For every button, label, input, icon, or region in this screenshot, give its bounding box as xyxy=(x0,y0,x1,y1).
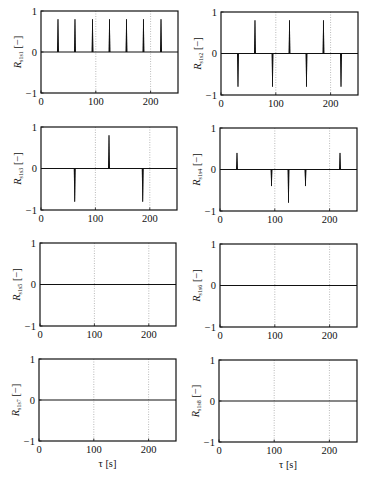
x-tick-label: 200 xyxy=(322,445,338,456)
y-tick-label: −1 xyxy=(25,321,36,332)
y-tick-label: −1 xyxy=(206,90,217,101)
y-tick-label: 1 xyxy=(32,6,37,17)
y-tick-label: 1 xyxy=(31,238,36,249)
x-tick-label: 200 xyxy=(141,444,157,455)
y-tick-label: −1 xyxy=(26,88,37,99)
y-tick-label: 1 xyxy=(32,122,37,133)
y-tick-label: −1 xyxy=(205,206,216,217)
y-tick-label: 0 xyxy=(32,163,37,174)
x-tick-label: 100 xyxy=(268,98,284,109)
chart-panel-6: 10−10100200Rs1s6 [−] xyxy=(191,239,357,342)
x-tick-label: 200 xyxy=(142,213,158,224)
x-tick-label: 0 xyxy=(217,214,222,225)
x-tick-label: 100 xyxy=(87,329,103,340)
x-tick-label: 0 xyxy=(218,98,223,109)
x-tick-label: 0 xyxy=(38,96,43,107)
y-tick-label: 0 xyxy=(211,164,216,175)
x-tick-label: 0 xyxy=(37,329,42,340)
chart-panel-8: 10−10100200Rs1s8 [−]τ [s] xyxy=(190,355,357,471)
x-tick-label: 200 xyxy=(143,96,159,107)
y-axis-label: Rs1s5 [−] xyxy=(11,268,23,302)
x-tick-label: 200 xyxy=(323,98,339,109)
y-tick-label: 1 xyxy=(211,239,216,250)
x-tick-label: 0 xyxy=(36,444,41,455)
x-tick-label: 0 xyxy=(38,213,43,224)
y-tick-label: 0 xyxy=(31,279,36,290)
x-axis-label: τ [s] xyxy=(99,458,117,469)
y-axis-label: Rs1s1 [−] xyxy=(12,36,24,70)
y-axis-label: Rs1s3 [−] xyxy=(12,152,24,186)
x-tick-label: 100 xyxy=(88,96,104,107)
y-tick-label: 0 xyxy=(212,48,217,59)
y-axis-label: Rs1s4 [−] xyxy=(191,153,203,187)
y-axis-label: Rs1s6 [−] xyxy=(191,269,203,303)
correlation-figure: 10−10100200Rs1s1 [−]10−10100200Rs1s2 [−]… xyxy=(0,0,367,481)
y-axis-label: Rs1s7 [−] xyxy=(10,384,22,418)
x-axis-label: τ [s] xyxy=(279,459,297,470)
chart-panel-1: 10−10100200Rs1s1 [−] xyxy=(12,6,178,108)
y-tick-label: 1 xyxy=(210,355,215,366)
chart-panel-2: 10−10100200Rs1s2 [−] xyxy=(192,7,358,110)
y-tick-label: 1 xyxy=(211,123,216,134)
y-tick-label: 0 xyxy=(210,396,215,407)
y-tick-label: −1 xyxy=(204,437,215,448)
x-tick-label: 100 xyxy=(267,214,283,225)
x-tick-label: 200 xyxy=(141,329,157,340)
chart-panel-7: 10−10100200Rs1s7 [−]τ [s] xyxy=(10,354,176,470)
y-tick-label: 0 xyxy=(211,280,216,291)
x-tick-label: 100 xyxy=(267,330,283,341)
y-tick-label: 1 xyxy=(212,7,217,18)
x-tick-label: 200 xyxy=(322,330,338,341)
x-tick-label: 100 xyxy=(88,213,104,224)
y-axis-label: Rs1s2 [−] xyxy=(192,37,204,71)
y-tick-label: −1 xyxy=(205,322,216,333)
y-tick-label: 1 xyxy=(30,354,35,365)
y-tick-label: 0 xyxy=(32,47,37,58)
y-tick-label: 0 xyxy=(30,395,35,406)
x-tick-label: 0 xyxy=(216,445,221,456)
x-tick-label: 0 xyxy=(217,330,222,341)
y-axis-label: Rs1s8 [−] xyxy=(190,385,202,419)
y-tick-label: −1 xyxy=(24,436,35,447)
x-tick-label: 200 xyxy=(322,214,338,225)
chart-panel-4: 10−10100200Rs1s4 [−] xyxy=(191,123,357,226)
x-tick-label: 100 xyxy=(266,445,282,456)
x-tick-label: 100 xyxy=(86,444,102,455)
chart-panel-5: 10−10100200Rs1s5 [−] xyxy=(11,238,176,341)
chart-panel-3: 10−10100200Rs1s3 [−] xyxy=(12,122,177,225)
y-tick-label: −1 xyxy=(26,205,37,216)
